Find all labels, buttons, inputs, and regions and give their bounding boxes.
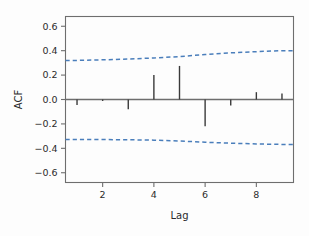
- x-tick-label: 6: [202, 189, 208, 200]
- y-axis-title: ACF: [13, 90, 24, 110]
- x-tick-label: 2: [100, 189, 106, 200]
- y-tick-label: 0.6: [42, 21, 57, 32]
- acf-plot-figure: 0.60.40.20.0−0.2−0.4−0.6 2468 ACF Lag: [0, 0, 309, 236]
- x-axis-title: Lag: [170, 210, 188, 221]
- y-tick-label: −0.6: [34, 167, 57, 178]
- x-tick-label: 8: [253, 189, 259, 200]
- y-tick-label: 0.0: [42, 94, 57, 105]
- x-tick-label: 4: [151, 189, 157, 200]
- acf-plot-canvas: 0.60.40.20.0−0.2−0.4−0.6 2468 ACF Lag: [0, 0, 309, 236]
- y-tick-label: −0.4: [34, 143, 57, 154]
- y-tick-label: 0.4: [42, 45, 57, 56]
- y-tick-label: −0.2: [34, 118, 57, 129]
- y-tick-label: 0.2: [42, 69, 57, 80]
